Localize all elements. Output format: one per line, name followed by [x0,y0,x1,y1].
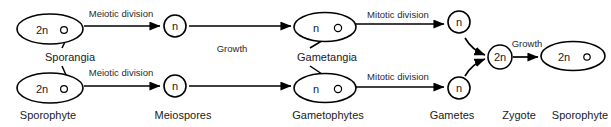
organ-dot-sporophyte-top [61,27,68,34]
flow-arrow-fertilization-bottom [465,59,485,76]
process-label-zygote-growth: Growth [512,38,543,49]
ploidy-label-gametophyte-bottom: n [313,83,319,95]
organ-dot-sporophyte-bottom [61,86,68,93]
stage-labels-layer: SporophyteMeiosporesGametophytesGametesZ… [20,109,608,121]
stage-sporophyte-bottom: 2n [17,73,83,103]
stage-meiospore-top: n [164,15,186,37]
label-gametes: Gametes [430,109,475,121]
stage-outline-gametophyte-top [294,13,356,42]
ploidy-label-meiospore-bottom: n [172,80,178,92]
stage-zygote: 2n [488,45,512,69]
label-sporophyte-final: Sporophyte [552,109,608,121]
process-label-growth-top: Growth [217,43,248,54]
organ-dot-gametophyte-top [334,24,341,31]
stage-outline-sporophyte-final [541,42,605,71]
stage-outline-sporophyte-top [17,14,83,44]
stage-gamete-bottom: n [448,77,470,99]
organ-labels-layer: SporangiaGametangia [45,51,358,63]
label-sporophyte: Sporophyte [20,109,76,121]
life-cycle-diagram: 2n2nnnnnnn2n2n Meiotic divisionMeiotic d… [0,0,611,127]
process-label-mitosis-bottom: Mitotic division [367,71,429,82]
diagram-canvas: 2n2nnnnnnn2n2n Meiotic divisionMeiotic d… [0,0,611,127]
label-meiospores: Meiospores [155,109,212,121]
stage-gamete-top: n [448,11,470,33]
stage-gametophyte-bottom: n [294,74,356,103]
ploidy-label-meiospore-top: n [172,20,178,32]
flow-arrow-fertilization-top [465,38,485,55]
ploidy-label-zygote: 2n [494,51,506,63]
organ-label-sporangia: Sporangia [45,51,96,63]
label-gametophytes: Gametophytes [292,109,364,121]
stage-meiospore-bottom: n [164,75,186,97]
process-label-meiosis-top: Meiotic division [89,8,153,19]
ploidy-label-gametophyte-top: n [313,22,319,34]
ploidy-label-gamete-top: n [456,16,462,28]
organ-dot-gametophyte-bottom [334,85,341,92]
ploidy-label-gamete-bottom: n [456,82,462,94]
stage-outline-gametophyte-bottom [294,74,356,103]
organ-label-gametangia: Gametangia [297,51,358,63]
stage-sporophyte-final: 2n [541,42,605,71]
organ-dot-sporophyte-final [584,54,590,60]
ploidy-label-sporophyte-bottom: 2n [36,83,48,95]
stage-gametophyte-top: n [294,13,356,42]
ploidy-label-sporophyte-top: 2n [36,24,48,36]
stage-outline-sporophyte-bottom [17,73,83,103]
process-label-meiosis-bottom: Meiotic division [89,67,153,78]
label-zygote: Zygote [502,109,536,121]
stage-sporophyte-top: 2n [17,14,83,44]
ploidy-label-sporophyte-final: 2n [558,51,570,63]
process-label-mitosis-top: Mitotic division [367,9,429,20]
